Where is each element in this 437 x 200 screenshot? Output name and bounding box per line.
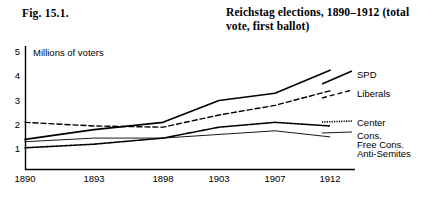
x-tick-1898: 1898: [143, 174, 183, 184]
series-line-spd: [25, 70, 330, 139]
chart-svg: [0, 0, 437, 200]
y-axis-title: Millions of voters: [33, 47, 104, 58]
x-tick-1893: 1893: [74, 174, 114, 184]
series-layer: [25, 70, 330, 148]
y-tick-2: 2: [8, 120, 20, 130]
chart-plot-area: 5 4 3 2 1 Millions of voters 1890 1893 1…: [0, 0, 437, 200]
y-tick-5: 5: [8, 47, 20, 57]
legend-label-center: Center: [357, 118, 386, 128]
y-tick-1: 1: [8, 144, 20, 154]
x-tick-1890: 1890: [5, 174, 45, 184]
legend-swatch-center: [322, 121, 352, 122]
y-tick-3: 3: [8, 96, 20, 106]
figure-page: Fig. 15.1. Reichstag elections, 1890–191…: [0, 0, 437, 200]
series-line-center: [25, 122, 330, 147]
x-tick-1912: 1912: [310, 174, 350, 184]
legend-label-liberals: Liberals: [357, 89, 390, 99]
x-tick-1907: 1907: [255, 174, 295, 184]
legend-label-anti-semites: Anti-Semites: [357, 149, 411, 159]
x-tick-1903: 1903: [199, 174, 239, 184]
legend-label-spd: SPD: [357, 70, 377, 80]
legend-swatch-spd: [322, 71, 352, 84]
legend-swatch-cons: [322, 132, 352, 133]
y-tick-4: 4: [8, 71, 20, 81]
series-line-liberals: [25, 91, 330, 127]
